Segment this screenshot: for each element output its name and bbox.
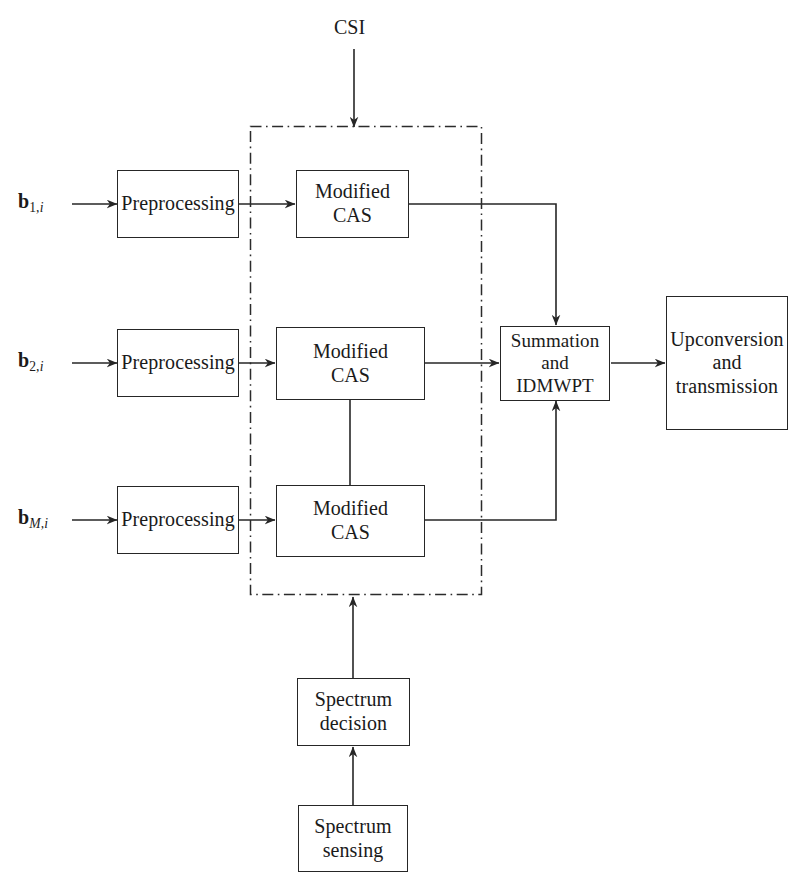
- preprocessing-block-2: Preprocessing: [117, 329, 239, 397]
- spectrum-decision-block-label: Spectrum decision: [311, 688, 396, 735]
- input-signal-2-subscript: 2,: [29, 359, 40, 374]
- modified-cas-block-1: Modified CAS: [296, 170, 409, 238]
- edge-casm-to-summation: [425, 401, 556, 520]
- modified-cas-block-1-label: Modified CAS: [311, 180, 394, 227]
- spectrum-sensing-block-label: Spectrum sensing: [310, 815, 395, 862]
- upconversion-block: Upconversion and transmission: [666, 296, 788, 430]
- preprocessing-block-1: Preprocessing: [117, 170, 239, 238]
- input-signal-2-vector: b: [18, 349, 29, 371]
- edge-layer: [0, 0, 802, 893]
- summation-idmwpt-block-label: Summation and IDMWPT: [507, 330, 604, 397]
- input-signal-1-vector: b: [18, 190, 29, 212]
- modified-cas-block-m: Modified CAS: [276, 485, 425, 557]
- csi-label: CSI: [334, 16, 365, 39]
- preprocessing-block-1-label: Preprocessing: [117, 192, 239, 216]
- modified-cas-block-2: Modified CAS: [276, 327, 425, 400]
- input-signal-m-subscript-italic: M,i: [29, 516, 48, 531]
- input-signal-1-subscript-italic: i: [40, 200, 44, 215]
- csi-label-text: CSI: [334, 16, 365, 38]
- upconversion-block-label: Upconversion and transmission: [666, 328, 787, 399]
- preprocessing-block-2-label: Preprocessing: [117, 351, 239, 375]
- block-diagram: CSI b1,i b2,i bM,i Preprocessing Modifie…: [0, 0, 802, 893]
- input-signal-m-vector: b: [18, 506, 29, 528]
- input-signal-m-label: bM,i: [18, 506, 48, 532]
- edge-cas1-to-summation: [409, 204, 556, 325]
- summation-idmwpt-block: Summation and IDMWPT: [500, 326, 610, 401]
- spectrum-decision-block: Spectrum decision: [297, 678, 410, 746]
- input-signal-2-subscript-italic: i: [40, 359, 44, 374]
- modified-cas-block-2-label: Modified CAS: [309, 340, 392, 387]
- input-signal-2-label: b2,i: [18, 349, 44, 375]
- modified-cas-block-m-label: Modified CAS: [309, 497, 392, 544]
- preprocessing-block-m: Preprocessing: [117, 486, 239, 554]
- input-signal-1-label: b1,i: [18, 190, 44, 216]
- input-signal-1-subscript: 1,: [29, 200, 40, 215]
- spectrum-sensing-block: Spectrum sensing: [298, 805, 408, 872]
- preprocessing-block-m-label: Preprocessing: [117, 508, 239, 532]
